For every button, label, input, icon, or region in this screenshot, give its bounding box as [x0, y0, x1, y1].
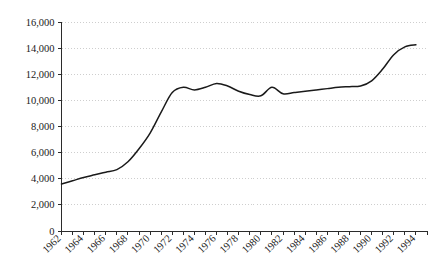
y-tick-label: 12,000 — [26, 69, 55, 80]
x-axis — [62, 231, 428, 235]
x-tick-label: 1980 — [240, 233, 263, 256]
y-axis — [58, 22, 62, 231]
chart-canvas: 02,0004,0006,0008,00010,00012,00014,0001… — [0, 0, 436, 277]
y-tick-label: 4,000 — [31, 173, 55, 184]
y-tick-label: 16,000 — [26, 17, 55, 28]
y-tick-label: 14,000 — [26, 43, 55, 54]
x-tick-label: 1984 — [284, 232, 307, 255]
x-tick-label: 1986 — [306, 233, 329, 256]
data-series — [62, 45, 416, 184]
x-tick-label: 1990 — [350, 233, 373, 256]
y-tick-label: 8,000 — [31, 121, 55, 132]
x-tick-label: 1992 — [373, 233, 396, 256]
x-tick-label: 1978 — [217, 233, 240, 256]
y-tick-label: 10,000 — [26, 95, 55, 106]
y-tick-labels: 02,0004,0006,0008,00010,00012,00014,0001… — [26, 17, 55, 237]
x-tick-label: 1962 — [40, 233, 63, 256]
x-tick-label: 1972 — [151, 233, 174, 256]
x-tick-label: 1974 — [173, 232, 196, 255]
x-tick-label: 1988 — [328, 233, 351, 256]
x-tick-label: 1970 — [129, 233, 152, 256]
gridlines — [62, 22, 428, 205]
y-tick-label: 6,000 — [31, 147, 55, 158]
x-tick-label: 1966 — [85, 233, 108, 256]
x-tick-label: 1976 — [195, 233, 218, 256]
x-tick-label: 1968 — [107, 233, 130, 256]
x-tick-label: 1982 — [262, 233, 285, 256]
data-line — [62, 45, 416, 184]
line-chart: 02,0004,0006,0008,00010,00012,00014,0001… — [0, 0, 436, 277]
y-tick-label: 2,000 — [31, 199, 55, 210]
x-tick-labels: 1962196419661968197019721974197619781980… — [40, 232, 418, 255]
x-tick-label: 1964 — [62, 232, 85, 255]
x-tick-label: 1994 — [395, 232, 418, 255]
